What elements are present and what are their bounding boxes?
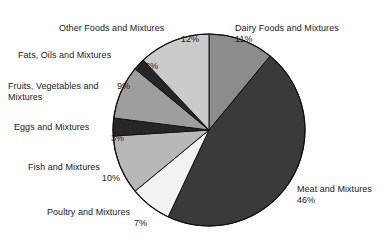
slice-label-dairy-text: Dairy Foods and Mixtures (235, 23, 339, 33)
slice-label-other-foods-text: Other Foods and Mixtures (59, 23, 164, 33)
slice-label-fruits-vegetables-pct: 9% (117, 81, 130, 93)
slice-label-poultry: Poultry and Mixtures 7% (47, 195, 147, 241)
slice-label-fish-text: Fish and Mixtures (28, 162, 100, 172)
slice-label-fats-oils-text: Fats, Oils and Mixtures (18, 50, 111, 60)
slice-label-fruits-vegetables-text-line2: Mixtures (8, 92, 130, 104)
slice-label-meat-pct: 46% (297, 195, 391, 207)
slice-label-poultry-text: Poultry and Mixtures (47, 207, 130, 217)
slice-label-eggs-pct: 3% (14, 133, 124, 145)
slice-label-meat: Meat and Mixtures 46% (297, 172, 391, 218)
slice-label-poultry-pct: 7% (47, 218, 147, 230)
pie-chart-figure: Other Foods and Mixtures 12% Fats, Oils … (0, 0, 391, 241)
slice-label-fish: Fish and Mixtures 10% (28, 150, 120, 196)
slice-label-meat-text: Meat and Mixtures (297, 184, 372, 194)
slice-label-dairy: Dairy Foods and Mixtures 11% (235, 11, 380, 57)
slice-label-eggs-text: Eggs and Mixtures (14, 122, 89, 132)
slice-label-fish-pct: 10% (28, 173, 120, 185)
slice-label-dairy-pct: 11% (235, 34, 380, 46)
slice-label-fruits-vegetables-text: Fruits, Vegetables and (8, 81, 99, 91)
